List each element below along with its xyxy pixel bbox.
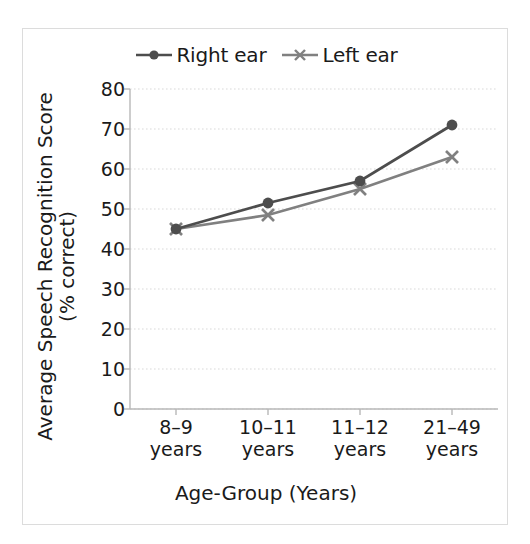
series-right-ear-line — [176, 125, 452, 229]
y-tick-label: 0 — [91, 398, 125, 420]
y-tick-label: 50 — [91, 198, 125, 220]
y-tick-label: 30 — [91, 278, 125, 300]
x-axis-title: Age-Group (Years) — [23, 481, 509, 505]
y-axis-title-line1: Average Speech Recognition Score — [33, 92, 57, 441]
y-tick-label: 40 — [91, 238, 125, 260]
y-axis-title-line2: (% correct) — [55, 211, 79, 322]
x-tick-label-range: 8–9 — [159, 416, 193, 438]
x-tick-label-group-1: 8–9 years — [130, 417, 222, 479]
plot-area: 80 70 60 50 40 30 20 10 0 Average Speech… — [23, 29, 509, 526]
x-tick-label-range: 21–49 — [423, 416, 481, 438]
y-tick-label: 60 — [91, 158, 125, 180]
x-tick-label-group-3: 11–12 years — [314, 417, 406, 479]
y-tick-labels: 80 70 60 50 40 30 20 10 0 — [91, 29, 125, 526]
y-tick-label: 70 — [91, 118, 125, 140]
x-tick-label-unit: years — [130, 439, 222, 461]
y-axis-title: Average Speech Recognition Score (% corr… — [34, 66, 79, 466]
x-tick-label-unit: years — [314, 439, 406, 461]
x-tick-label-range: 10–11 — [239, 416, 297, 438]
x-tick-labels: 8–9 years 10–11 years 11–12 years 21–49 … — [130, 417, 498, 479]
x-tick-label-unit: years — [222, 439, 314, 461]
x-tick-label-range: 11–12 — [331, 416, 389, 438]
x-tick-label-unit: years — [406, 439, 498, 461]
y-tick-label: 80 — [91, 78, 125, 100]
gridlines — [130, 89, 498, 409]
x-tick-marks — [176, 409, 452, 415]
series-right-ear — [171, 120, 458, 235]
figure-container: Right ear Left ear — [22, 28, 508, 525]
y-tick-label: 20 — [91, 318, 125, 340]
x-tick-label-group-2: 10–11 years — [222, 417, 314, 479]
x-tick-label-group-4: 21–49 years — [406, 417, 498, 479]
y-tick-label: 10 — [91, 358, 125, 380]
